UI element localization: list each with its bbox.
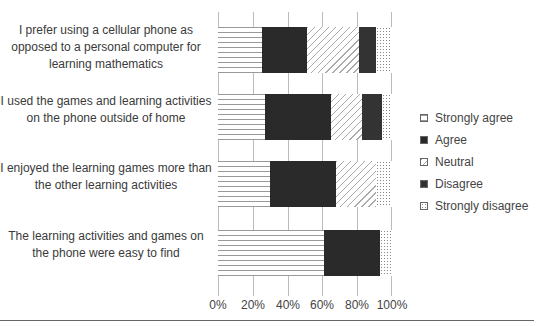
bar-segment-strongly-agree bbox=[218, 27, 262, 73]
bar-segment-strongly-disagree bbox=[380, 230, 392, 276]
bar-segment-neutral bbox=[331, 94, 362, 140]
bar-segment-neutral bbox=[336, 161, 376, 207]
bar-segment-disagree bbox=[359, 27, 376, 73]
legend-label: Disagree bbox=[435, 177, 483, 191]
bar-row-2 bbox=[218, 94, 392, 140]
bar-segment-agree bbox=[265, 94, 331, 140]
x-tick: 80% bbox=[345, 298, 369, 312]
x-tick: 60% bbox=[310, 298, 334, 312]
legend-label: Strongly agree bbox=[435, 111, 513, 125]
bar-segment-agree bbox=[262, 27, 307, 73]
bar-segment-agree bbox=[270, 161, 336, 207]
x-tick: 0% bbox=[209, 298, 226, 312]
bar-row-1 bbox=[218, 27, 392, 73]
bar-segment-strongly-agree bbox=[218, 230, 324, 276]
x-tick: 20% bbox=[241, 298, 265, 312]
neutral-swatch-icon bbox=[420, 158, 428, 166]
strongly-agree-swatch-icon bbox=[420, 114, 428, 122]
bar-segment-strongly-agree bbox=[218, 94, 265, 140]
bar-segment-strongly-disagree bbox=[376, 161, 392, 207]
legend-label: Strongly disagree bbox=[435, 199, 528, 213]
bottom-rule bbox=[0, 320, 534, 321]
disagree-swatch-icon bbox=[420, 180, 428, 188]
legend-label: Agree bbox=[435, 133, 467, 147]
x-tick: 40% bbox=[276, 298, 300, 312]
bar-segment-neutral bbox=[307, 27, 359, 73]
legend-label: Neutral bbox=[435, 155, 474, 169]
plot-area bbox=[218, 12, 392, 296]
bar-segment-strongly-disagree bbox=[376, 27, 392, 73]
bar-row-4 bbox=[218, 230, 392, 276]
category-label-1: I prefer using a cellular phone as oppos… bbox=[0, 22, 212, 73]
bar-row-3 bbox=[218, 161, 392, 207]
category-label-3: I enjoyed the learning games more than t… bbox=[0, 160, 212, 194]
bar-segment-agree bbox=[324, 230, 380, 276]
strongly-disagree-swatch-icon bbox=[420, 202, 428, 210]
bar-segment-disagree bbox=[362, 94, 381, 140]
legend: Strongly agree Agree Neutral Disagree St… bbox=[420, 107, 528, 217]
category-label-4: The learning activities and games on the… bbox=[0, 228, 212, 262]
x-tick: 100% bbox=[377, 298, 408, 312]
category-label-2: I used the games and learning activities… bbox=[0, 93, 212, 127]
bar-segment-strongly-agree bbox=[218, 161, 270, 207]
agree-swatch-icon bbox=[420, 136, 428, 144]
bar-segment-strongly-disagree bbox=[382, 94, 392, 140]
